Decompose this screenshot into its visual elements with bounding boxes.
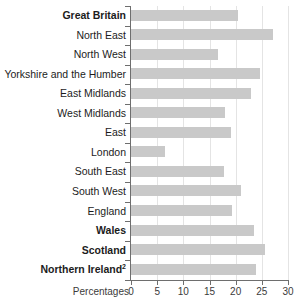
category-label: London	[91, 146, 126, 159]
category-label: South East	[75, 165, 126, 178]
bar	[131, 185, 241, 196]
category-axis-tick	[125, 6, 130, 7]
value-axis-tick-label: 20	[230, 286, 241, 298]
bar	[131, 49, 218, 60]
value-axis-tick-label: 15	[204, 286, 215, 298]
category-label: Yorkshire and the Humber	[4, 68, 126, 81]
footnote-marker: 2	[122, 263, 126, 270]
category-axis-tick	[125, 143, 130, 144]
bar	[131, 107, 225, 118]
category-axis-tick	[125, 104, 130, 105]
category-label: South West	[72, 185, 126, 198]
category-axis-tick	[125, 221, 130, 222]
category-label: Scotland	[82, 244, 126, 257]
category-axis-tick	[125, 260, 130, 261]
bar-row: East Midlands	[0, 84, 299, 104]
bar	[131, 225, 254, 236]
bar-row: Wales	[0, 221, 299, 241]
category-axis-tick	[125, 65, 130, 66]
bar-row: England	[0, 202, 299, 222]
category-axis-tick	[125, 182, 130, 183]
value-axis-tick	[183, 281, 184, 285]
bar	[131, 127, 231, 138]
value-axis-tick	[262, 281, 263, 285]
category-axis-tick	[125, 241, 130, 242]
bar-row: East	[0, 123, 299, 143]
category-axis-tick	[125, 280, 130, 281]
value-axis-tick-label: 30	[282, 286, 293, 298]
bar-row: London	[0, 143, 299, 163]
category-label: Great Britain	[62, 9, 126, 22]
value-axis-tick-label: 5	[154, 286, 160, 298]
bar-row: North East	[0, 26, 299, 46]
bar-row: North West	[0, 45, 299, 65]
category-axis-tick	[125, 162, 130, 163]
category-axis-tick	[125, 45, 130, 46]
bar-row: Great Britain	[0, 6, 299, 26]
category-axis-tick	[125, 84, 130, 85]
category-axis-tick	[125, 202, 130, 203]
bar	[131, 205, 232, 216]
category-label: North West	[74, 48, 126, 61]
bar-row: Scotland	[0, 241, 299, 261]
category-axis-tick	[125, 26, 130, 27]
bar-row: Northern Ireland2	[0, 260, 299, 280]
value-axis-tick-label: 0	[128, 286, 134, 298]
bar-row: South East	[0, 162, 299, 182]
value-axis-tick	[210, 281, 211, 285]
bar	[131, 264, 256, 275]
bar	[131, 29, 273, 40]
category-label: North East	[76, 29, 126, 42]
bar	[131, 244, 265, 255]
bar	[131, 88, 251, 99]
category-label: East	[105, 126, 126, 139]
bar	[131, 10, 238, 21]
value-axis-tick-label: 25	[256, 286, 267, 298]
bar-chart: Great BritainNorth EastNorth WestYorkshi…	[0, 0, 299, 308]
x-axis-label: Percentages	[73, 286, 129, 298]
category-axis-tick	[125, 123, 130, 124]
category-label: East Midlands	[60, 87, 126, 100]
category-label: Wales	[96, 224, 126, 237]
bar-row: Yorkshire and the Humber	[0, 65, 299, 85]
bar	[131, 166, 224, 177]
category-label: England	[87, 205, 126, 218]
bar-row: South West	[0, 182, 299, 202]
value-axis-tick	[131, 281, 132, 285]
category-label: West Midlands	[57, 107, 126, 120]
category-label: Northern Ireland2	[40, 263, 126, 276]
value-axis-tick	[288, 281, 289, 285]
value-axis-tick	[157, 281, 158, 285]
value-axis-tick	[236, 281, 237, 285]
bar	[131, 68, 260, 79]
bar	[131, 146, 165, 157]
value-axis-tick-label: 10	[178, 286, 189, 298]
bar-row: West Midlands	[0, 104, 299, 124]
